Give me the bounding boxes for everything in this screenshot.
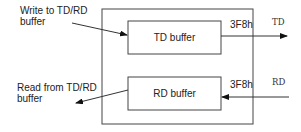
read-note-line1: Read from TD/RD: [17, 82, 97, 93]
td-address-label: 3F8h: [230, 19, 253, 30]
rd-address-label: 3F8h: [230, 79, 253, 90]
rd-signal-label: RD: [272, 77, 285, 87]
td-signal-label: TD: [272, 17, 285, 27]
read-note-line2: buffer: [17, 93, 43, 104]
buffer-diagram: TD buffer RD buffer 3F8h TD 3F8h RD Writ…: [0, 0, 301, 132]
rd-buffer-label: RD buffer: [153, 88, 196, 99]
td-buffer-label: TD buffer: [154, 32, 196, 43]
write-note-line2: buffer: [20, 16, 46, 27]
write-note-line1: Write to TD/RD: [20, 5, 87, 16]
